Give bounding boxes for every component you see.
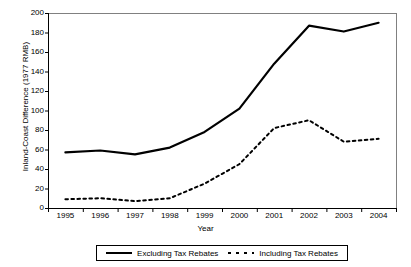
x-axis-title: Year bbox=[0, 224, 411, 233]
plot-frame bbox=[49, 14, 397, 209]
solid-line-icon bbox=[106, 249, 132, 257]
x-tick-label: 2004 bbox=[359, 211, 399, 221]
chart-legend: Excluding Tax RebatesIncluding Tax Rebat… bbox=[96, 245, 348, 261]
legend-label: Including Tax Rebates bbox=[259, 249, 338, 258]
legend-label: Excluding Tax Rebates bbox=[137, 249, 218, 258]
x-axis-tick-labels: 1995199619971998199920002001200220032004 bbox=[0, 211, 411, 225]
legend-entry: Including Tax Rebates bbox=[228, 249, 338, 258]
series-line-1 bbox=[65, 120, 378, 201]
dashed-line-icon bbox=[228, 249, 254, 257]
legend-entry: Excluding Tax Rebates bbox=[106, 249, 218, 258]
chart-figure: Inland-Coast Difference (1977 RMB) 02040… bbox=[0, 0, 411, 267]
